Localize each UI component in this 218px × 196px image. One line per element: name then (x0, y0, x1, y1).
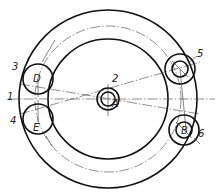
label-6: 6 (198, 128, 204, 139)
label-4: 4 (10, 115, 16, 126)
label-5: 5 (197, 48, 203, 59)
label-1: 1 (7, 91, 13, 102)
label-B: B (181, 125, 188, 136)
hole-E-radial (46, 136, 52, 146)
drawing-svg: 3 1 4 2 5 6 D E A B (0, 0, 218, 196)
label-D: D (33, 73, 41, 84)
label-2: 2 (112, 73, 118, 84)
technical-drawing: 3 1 4 2 5 6 D E A B (0, 0, 218, 196)
label-3: 3 (12, 61, 18, 72)
label-A: A (111, 98, 119, 109)
label-E: E (33, 122, 40, 133)
